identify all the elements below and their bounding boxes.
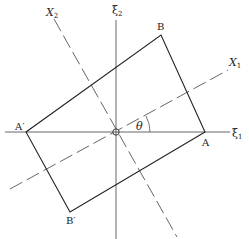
rectangle-ABA'B' <box>26 35 205 212</box>
X1-label: X1 <box>228 56 241 70</box>
X2-label: X2 <box>45 6 58 20</box>
point-B-label: B <box>157 21 164 32</box>
point-B-prime-label: B′ <box>66 215 76 226</box>
rotation-diagram: θ A B A′ B′ ξ1 ξ2 X1 X2 <box>0 0 249 239</box>
xi1-label: ξ1 <box>232 127 243 141</box>
theta-arc <box>146 116 150 132</box>
theta-label: θ <box>136 120 143 133</box>
point-A-prime-label: A′ <box>14 121 25 132</box>
X2-axis <box>54 19 177 237</box>
X1-axis <box>10 70 228 189</box>
point-A-label: A <box>201 137 210 148</box>
xi2-label: ξ2 <box>112 4 123 18</box>
